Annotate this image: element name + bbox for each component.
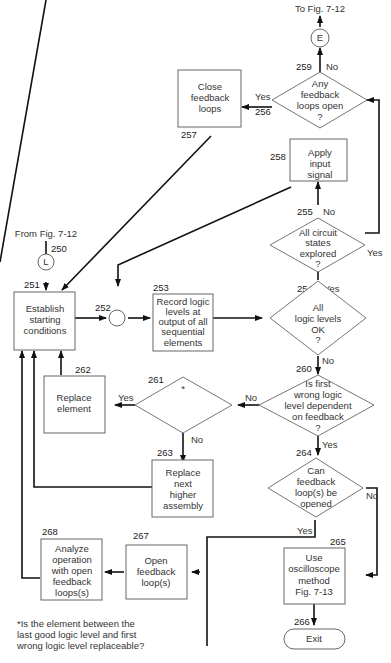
decision-261-mark: *: [181, 383, 185, 394]
edge-label-256-yes: Yes: [255, 91, 271, 102]
edge-label-260-no: No: [245, 392, 257, 403]
decision-260-line5: ?: [315, 422, 320, 433]
process-265-line2: oscilloscope: [288, 563, 340, 574]
process-257-line1: Close: [198, 81, 222, 92]
process-251-line2: starting: [29, 314, 60, 325]
decision-264-line3: loop(s) be: [295, 487, 337, 498]
node-number-266: 266: [294, 616, 310, 627]
process-267-line1: Open: [144, 555, 167, 566]
edge-label-255-no: No: [323, 206, 335, 217]
process-257-line2: feedback: [191, 92, 230, 103]
process-268-line4: feedback: [53, 576, 92, 587]
junction-252: [109, 310, 125, 326]
decision-260-line4: on feedback: [292, 411, 344, 422]
process-258-line2: input: [310, 158, 331, 169]
node-number-267: 267: [133, 530, 149, 541]
process-263-line1: Replace: [166, 467, 201, 478]
decision-260-line1: Is first: [305, 378, 331, 389]
decision-260-line3: level dependent: [284, 400, 351, 411]
process-263-line2: next: [174, 478, 192, 489]
node-number-264: 264: [296, 447, 312, 458]
node-number-257: 257: [181, 129, 197, 140]
decision-254-line2: logic levels: [295, 313, 342, 324]
footnote-line1: *Is the element between the: [17, 618, 135, 629]
process-265-line4: Fig. 7-13: [295, 586, 333, 597]
node-number-258: 258: [270, 151, 286, 162]
decision-254-line4: ?: [315, 334, 320, 345]
process-262-line1: Replace: [57, 392, 92, 403]
process-251-line1: Establish: [26, 303, 65, 314]
edge-label-254-no: No: [322, 355, 334, 366]
edge-label-261-yes: Yes: [118, 392, 134, 403]
process-265-line1: Use: [306, 552, 323, 563]
decision-256-line2: feedback: [301, 89, 340, 100]
node-number-262: 262: [75, 364, 91, 375]
process-263-line4: assembly: [163, 500, 203, 511]
process-265-line3: method: [298, 575, 330, 586]
process-258-line3: signal: [308, 169, 333, 180]
connector-e-label: E: [317, 32, 323, 43]
node-number-265: 265: [330, 536, 346, 547]
process-267-line3: loop(s): [141, 577, 170, 588]
node-number-263: 263: [157, 447, 173, 458]
process-257-line3: loops: [199, 103, 222, 114]
connector-l-label: L: [43, 256, 48, 267]
node-number-253: 253: [153, 282, 169, 293]
edge-label-264-yes: Yes: [297, 525, 313, 536]
process-262-line2: element: [57, 403, 91, 414]
process-267-line2: feedback: [137, 566, 176, 577]
process-268-line5: loops(s): [55, 587, 89, 598]
to-fig-label: To Fig. 7-12: [295, 3, 345, 14]
decision-256-line3: loops open: [297, 100, 343, 111]
node-number-250: 250: [51, 243, 67, 254]
edge-label-260-yes: Yes: [322, 439, 338, 450]
edge-label-255-yes: Yes: [367, 247, 383, 258]
decision-255-line4: ?: [315, 258, 320, 269]
terminal-266-label: Exit: [306, 633, 322, 644]
decision-264-line2: feedback: [297, 476, 336, 487]
process-251-line3: conditions: [24, 325, 67, 336]
process-253-line5: elements: [164, 337, 203, 348]
process-268-line3: with open: [51, 565, 93, 576]
node-number-251: 251: [24, 279, 40, 290]
decision-264-line4: opened: [300, 498, 332, 509]
node-number-259: 259: [296, 61, 312, 72]
process-258-line1: Apply: [308, 147, 332, 158]
decision-264-line1: Can: [307, 465, 324, 476]
from-fig-label: From Fig. 7-12: [15, 228, 77, 239]
troubleshooting-flowchart: To Fig. 7-12 E 259 No Any feedback loops…: [0, 0, 391, 663]
decision-256-line4: ?: [317, 111, 322, 122]
process-268-line1: Analyze: [55, 543, 89, 554]
node-number-260: 260: [296, 363, 312, 374]
process-268-line2: operation: [52, 554, 92, 565]
process-263-line3: higher: [170, 489, 196, 500]
node-number-256: 256: [255, 106, 271, 117]
edge-label-259-no: No: [326, 61, 338, 72]
footnote-line2: last good logic level and first: [17, 629, 137, 640]
node-number-252: 252: [95, 302, 111, 313]
process-253-line4: sequential: [161, 326, 204, 337]
edge-label-264-no: No: [366, 490, 378, 501]
edge-label-261-no: No: [191, 434, 203, 445]
decision-255-line2: states: [305, 237, 331, 248]
footnote-line3: wrong logic level replaceable?: [16, 640, 144, 651]
node-number-268: 268: [42, 526, 58, 537]
decision-260-line2: wrong logic: [293, 389, 342, 400]
node-number-261: 261: [148, 374, 164, 385]
decision-256-line1: Any: [312, 78, 329, 89]
node-number-255: 255: [297, 206, 313, 217]
decision-254-line1: All: [313, 302, 324, 313]
